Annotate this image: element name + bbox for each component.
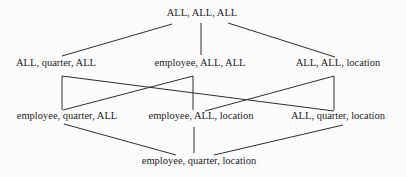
- edge-all-quarter-all--all-quarter-location: [62, 76, 334, 111]
- edge-all-all-all--all-all-location: [228, 23, 335, 57]
- edge-all-quarter-location--employee-quarter-location: [214, 125, 343, 155]
- node-all-all-all: ALL, ALL, ALL: [167, 7, 238, 19]
- lattice-edges: [0, 0, 406, 177]
- node-all-all-location: ALL, ALL, location: [296, 57, 381, 69]
- node-all-quarter-location: ALL, quarter, location: [291, 110, 385, 122]
- cuboid-lattice-diagram: ALL, ALL, ALL ALL, quarter, ALL employee…: [0, 0, 406, 177]
- edge-employee-all-all--employee-quarter-all: [63, 76, 193, 110]
- node-employee-all-location: employee, ALL, location: [149, 110, 254, 122]
- node-employee-all-all: employee, ALL, ALL: [155, 57, 246, 69]
- node-all-quarter-all: ALL, quarter, ALL: [16, 57, 96, 69]
- node-employee-quarter-all: employee, quarter, ALL: [17, 110, 117, 122]
- edge-employee-quarter-all--employee-quarter-location: [64, 124, 176, 155]
- edge-all-all-location--employee-all-location: [205, 76, 334, 111]
- node-employee-quarter-location: employee, quarter, location: [142, 155, 256, 167]
- edge-all-all-all--all-quarter-all: [62, 24, 172, 56]
